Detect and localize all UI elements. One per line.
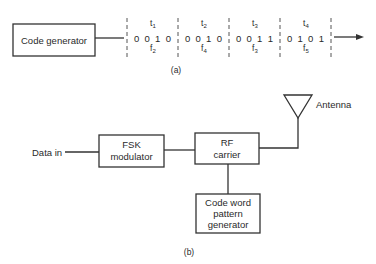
right-arrow-icon [334,34,364,40]
bit-pattern: 0 0 1 0 [185,33,222,44]
segment-1: t1 0 0 1 0 f2 [134,18,171,54]
part-b-label: (b) [184,247,195,257]
antenna-triangle-icon [284,95,312,118]
part-b: Data in FSK modulator RF carrier Antenna… [32,95,352,257]
fsk-label-line2: modulator [110,151,152,162]
frequency-label: f2 [150,43,156,54]
bit-pattern: 0 0 1 0 [134,33,171,44]
fsk-label-line1: FSK [122,139,141,150]
bit-pattern: 0 0 1 1 [236,33,273,44]
rf-label-line2: carrier [214,149,241,160]
frequency-label: f4 [201,43,207,54]
frequency-label: f3 [252,43,258,54]
code-generator-label: Code generator [21,35,87,46]
antenna-label: Antenna [316,99,352,110]
data-in-label: Data in [32,147,62,158]
frequency-label: f5 [303,43,309,54]
codeword-label-line1: Code word [205,197,251,208]
part-a: Code generator t1 0 0 1 0 f2 t2 0 0 1 0 … [13,18,364,75]
segment-4: t4 0 1 0 1 f5 [287,18,324,54]
time-label: t4 [303,18,309,29]
fsk-diagram: Code generator t1 0 0 1 0 f2 t2 0 0 1 0 … [0,0,376,264]
segment-2: t2 0 0 1 0 f4 [185,18,222,54]
segment-3: t3 0 0 1 1 f3 [236,18,273,54]
codeword-label-line2: pattern [213,208,243,219]
time-label: t2 [201,18,207,29]
rf-to-antenna-line [259,118,298,148]
time-label: t1 [150,18,156,29]
time-label: t3 [252,18,258,29]
part-a-label: (a) [171,65,182,75]
codeword-label-line3: generator [208,219,249,230]
bit-pattern: 0 1 0 1 [287,33,324,44]
rf-label-line1: RF [221,137,234,148]
